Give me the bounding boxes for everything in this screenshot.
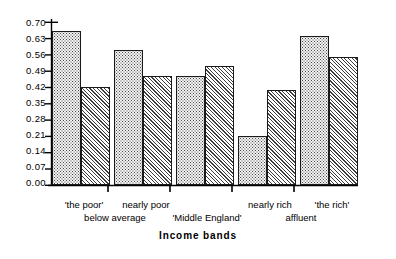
bar-9-the-rich-dotted — [300, 36, 329, 185]
y-tick-label-0.00: 0.00 — [26, 178, 46, 188]
x-label-the-rich: 'the rich' — [294, 199, 370, 210]
bar-5-middle-england-dotted — [176, 76, 205, 185]
x-label-affluent: affluent — [263, 212, 339, 223]
bar-4-nearly-poor-hatched — [143, 76, 172, 185]
x-label-below-average: below average — [77, 212, 153, 223]
y-tick-label-0.14: 0.14 — [26, 146, 46, 156]
x-axis-title: Income bands — [0, 230, 396, 241]
bar-3-nearly-poor-dotted — [114, 50, 143, 185]
y-tick-label-0.63: 0.63 — [26, 34, 46, 44]
y-tick-label-0.49: 0.49 — [26, 66, 46, 76]
bar-8-nearly-rich-hatched — [267, 90, 296, 185]
plot-area — [52, 22, 356, 185]
y-tick-label-0.21: 0.21 — [26, 130, 46, 140]
x-label-middle-england: 'Middle England' — [162, 212, 252, 223]
bar-6-middle-england-hatched — [205, 66, 234, 185]
y-tick-label-0.42: 0.42 — [26, 82, 46, 92]
bar-7-nearly-rich-dotted — [238, 136, 267, 185]
bar-1-the-poor-dotted — [52, 31, 81, 185]
y-tick-label-0.07: 0.07 — [26, 162, 46, 172]
y-tick-label-0.70: 0.70 — [26, 18, 46, 28]
x-label-nearly-poor: nearly poor — [108, 199, 184, 210]
y-tick-label-0.35: 0.35 — [26, 98, 46, 108]
bar-10-the-rich-hatched — [329, 57, 358, 185]
y-tick-label-0.28: 0.28 — [26, 114, 46, 124]
y-tick-label-0.56: 0.56 — [26, 50, 46, 60]
bar-2-the-poor-hatched — [81, 87, 110, 185]
y-axis-tick-labels: 0.70 0.63 0.56 0.49 0.42 0.35 0.28 0.21 … — [8, 0, 46, 259]
bar-chart: 0.70 0.63 0.56 0.49 0.42 0.35 0.28 0.21 … — [0, 0, 396, 259]
